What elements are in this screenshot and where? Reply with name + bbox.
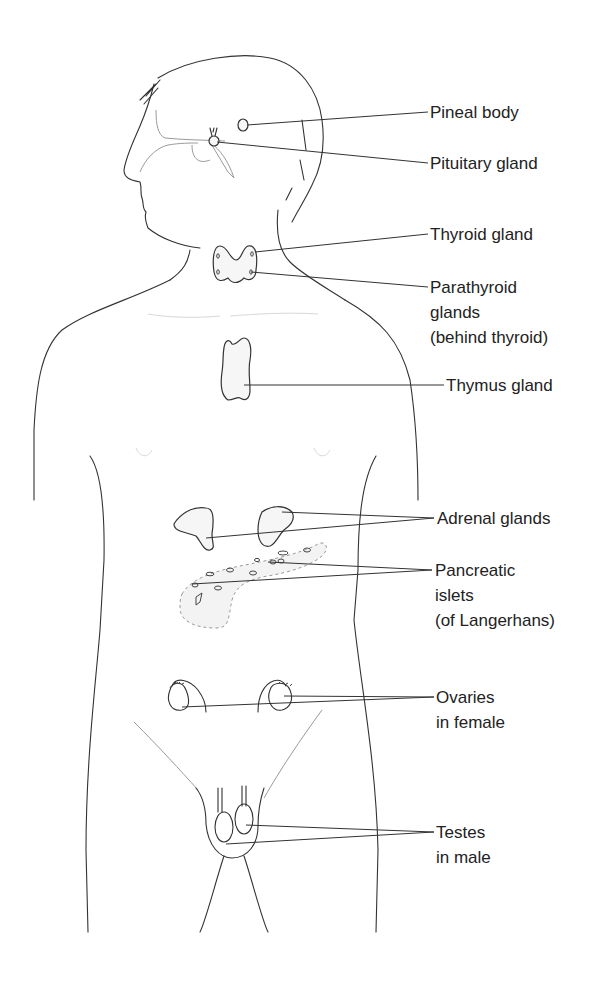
label-ovaries: Ovaries in female: [436, 685, 505, 735]
label-text: in female: [436, 710, 505, 735]
label-text: Pancreatic: [435, 558, 555, 583]
label-text: (of Langerhans): [435, 608, 555, 633]
pancreas: [180, 543, 326, 628]
thyroid-gland: [213, 246, 256, 283]
label-text: islets: [435, 583, 555, 608]
label-pineal-body: Pineal body: [430, 100, 519, 125]
label-text: Pineal body: [430, 100, 519, 125]
label-parathyroid-glands: Parathyroid glands (behind thyroid): [430, 275, 548, 350]
leader-lines: [182, 112, 444, 844]
testes: [196, 786, 264, 858]
groin-line-left: [134, 722, 198, 790]
label-adrenal-glands: Adrenal glands: [437, 506, 550, 531]
label-text: Testes: [436, 820, 491, 845]
label-text: Pituitary gland: [430, 151, 538, 176]
label-testes: Testes in male: [436, 820, 491, 870]
label-text: Ovaries: [436, 685, 505, 710]
label-pancreatic-islets: Pancreatic islets (of Langerhans): [435, 558, 555, 633]
endocrine-diagram: [0, 0, 606, 982]
collarbone-lines: [148, 313, 318, 317]
label-text: glands: [430, 300, 548, 325]
label-thymus-gland: Thymus gland: [446, 373, 553, 398]
adrenal-gland-left: [174, 508, 213, 551]
groin-line-right: [264, 710, 322, 798]
label-pituitary-gland: Pituitary gland: [430, 151, 538, 176]
pituitary-gland: [209, 128, 219, 146]
label-thyroid-gland: Thyroid gland: [430, 222, 533, 247]
label-text: Thyroid gland: [430, 222, 533, 247]
thymus-gland: [221, 338, 251, 400]
nipples: [136, 448, 330, 456]
pineal-body: [238, 119, 248, 131]
label-text: (behind thyroid): [430, 325, 548, 350]
label-text: Thymus gland: [446, 373, 553, 398]
label-text: Parathyroid: [430, 275, 548, 300]
label-text: Adrenal glands: [437, 506, 550, 531]
label-text: in male: [436, 845, 491, 870]
